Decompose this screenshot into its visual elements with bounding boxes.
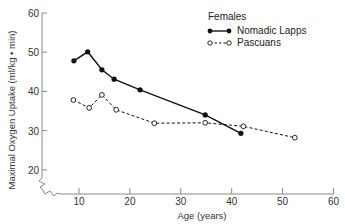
series-pascuans bbox=[71, 93, 297, 141]
series-line bbox=[74, 52, 241, 134]
open-circle-marker-icon bbox=[152, 121, 157, 126]
x-tick-label: 10 bbox=[73, 196, 85, 207]
filled-circle-marker-icon bbox=[238, 131, 243, 136]
open-circle-marker-icon bbox=[71, 98, 76, 103]
open-circle-marker-icon bbox=[100, 93, 105, 98]
legend-title: Females bbox=[208, 11, 246, 22]
series-layer bbox=[71, 49, 297, 140]
open-circle-marker-icon bbox=[114, 107, 119, 112]
y-tick-label: 30 bbox=[28, 126, 40, 137]
legend-entry-pascuans: Pascuans bbox=[208, 37, 281, 48]
x-axis-title: Age (years) bbox=[177, 210, 226, 221]
filled-circle-marker-icon bbox=[203, 112, 208, 117]
y-axis-title: Maximal Oxygen Uptake (ml/kg • min) bbox=[6, 30, 17, 189]
open-circle-marker-icon bbox=[241, 124, 246, 129]
open-circle-marker-icon bbox=[87, 106, 92, 111]
filled-circle-marker-icon bbox=[138, 87, 143, 92]
y-tick-label: 20 bbox=[28, 165, 40, 176]
x-tick-label: 60 bbox=[328, 196, 340, 207]
oxygen-uptake-chart: 2030405060102030405060 Age (years) Maxim… bbox=[0, 0, 345, 224]
legend: Females Nomadic Lapps Pascuans bbox=[208, 11, 307, 48]
filled-circle-marker-icon bbox=[85, 49, 90, 54]
series-line bbox=[73, 95, 294, 138]
filled-circle-marker-icon bbox=[112, 77, 117, 82]
y-tick-label: 60 bbox=[28, 8, 40, 19]
open-circle-marker-icon bbox=[203, 120, 208, 125]
legend-label: Pascuans bbox=[237, 37, 281, 48]
y-tick-label: 40 bbox=[28, 86, 40, 97]
filled-circle-marker-icon bbox=[208, 29, 213, 34]
y-tick-label: 50 bbox=[28, 47, 40, 58]
axes: 2030405060102030405060 bbox=[28, 8, 340, 207]
filled-circle-marker-icon bbox=[99, 67, 104, 72]
filled-circle-marker-icon bbox=[71, 58, 76, 63]
open-circle-marker-icon bbox=[227, 41, 231, 45]
open-circle-marker-icon bbox=[208, 41, 212, 45]
x-tick-label: 20 bbox=[124, 196, 136, 207]
filled-circle-marker-icon bbox=[227, 29, 232, 34]
legend-entry-nomadic-lapps: Nomadic Lapps bbox=[208, 25, 307, 36]
x-tick-label: 50 bbox=[277, 196, 289, 207]
open-circle-marker-icon bbox=[292, 135, 297, 140]
x-tick-label: 40 bbox=[226, 196, 238, 207]
x-tick-label: 30 bbox=[175, 196, 187, 207]
legend-label: Nomadic Lapps bbox=[237, 25, 306, 36]
